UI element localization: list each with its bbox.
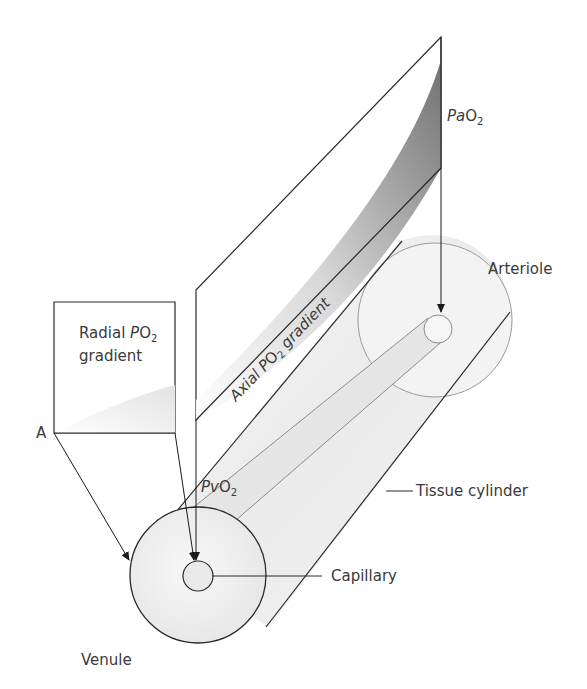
tissue-cylinder-label: Tissue cylinder — [415, 482, 529, 500]
point-a-label: A — [36, 424, 47, 442]
krogh-cylinder-diagram: Axial PO2 gradient Radial PO2 gradient P… — [0, 0, 587, 689]
radial-gradient-label: Radial PO2 — [79, 324, 157, 344]
capillary-label: Capillary — [331, 567, 397, 585]
pao2-label: PaO2 — [447, 107, 483, 127]
radial-gradient-panel — [54, 302, 175, 433]
point-a-arrow — [54, 433, 129, 560]
venule-label: Venule — [81, 651, 132, 669]
arteriole-label: Arteriole — [488, 260, 552, 278]
venule-disc — [130, 507, 266, 643]
radial-gradient-label-2: gradient — [79, 347, 142, 365]
diagram-svg: Axial PO2 gradient Radial PO2 gradient P… — [0, 0, 587, 689]
